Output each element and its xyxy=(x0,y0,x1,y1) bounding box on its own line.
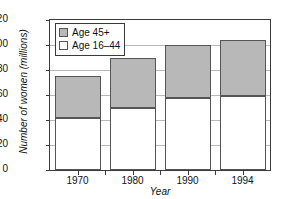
x-tick-mark-minor xyxy=(215,170,216,175)
bar-segment-age-16-44[interactable] xyxy=(110,108,156,171)
y-tick-mark xyxy=(46,20,50,21)
y-axis-title: Number of women (millions) xyxy=(18,17,29,167)
x-tick-mark-minor xyxy=(105,170,106,175)
x-axis-title: Year xyxy=(49,186,271,197)
y-tick-label-text: 0 xyxy=(0,163,8,174)
x-tick-mark-minor xyxy=(160,170,161,175)
bar-1994[interactable] xyxy=(220,40,266,170)
bar-segment-age-16-44[interactable] xyxy=(55,118,101,171)
x-tick-label: 1970 xyxy=(53,175,103,186)
bar-segment-age-45-plus[interactable] xyxy=(165,45,211,98)
y-tick-mark xyxy=(46,45,50,46)
white-swatch-icon xyxy=(59,41,68,50)
y-tick-label-text: 80 xyxy=(0,63,8,74)
y-tick-mark xyxy=(46,120,50,121)
x-tick-label: 1990 xyxy=(163,175,213,186)
stacked-bar-chart: Number of women (millions) 0204060801001… xyxy=(0,0,282,199)
bar-1980[interactable] xyxy=(110,58,156,171)
x-tick-label: 1994 xyxy=(218,175,268,186)
bar-1990[interactable] xyxy=(165,45,211,170)
legend-label: Age 16–44 xyxy=(72,40,120,51)
chart-legend: Age 45+ Age 16–44 xyxy=(55,23,125,56)
legend-item-age-16-44: Age 16–44 xyxy=(59,39,120,52)
x-tick-label: 1980 xyxy=(108,175,158,186)
y-tick-label-text: 60 xyxy=(0,88,8,99)
y-tick-mark xyxy=(46,95,50,96)
bar-segment-age-16-44[interactable] xyxy=(220,96,266,170)
legend-label: Age 45+ xyxy=(72,27,110,38)
y-tick-label-text: 20 xyxy=(0,138,8,149)
y-tick-label-text: 40 xyxy=(0,113,8,124)
y-tick-label-text: 100 xyxy=(0,38,8,49)
y-tick-mark xyxy=(46,170,50,171)
legend-item-age-45-plus: Age 45+ xyxy=(59,26,120,39)
gray-swatch-icon xyxy=(59,28,68,37)
bar-segment-age-45-plus[interactable] xyxy=(220,40,266,96)
bar-segment-age-45-plus[interactable] xyxy=(110,58,156,108)
bar-segment-age-16-44[interactable] xyxy=(165,98,211,171)
bar-1970[interactable] xyxy=(55,76,101,170)
y-tick-mark xyxy=(46,145,50,146)
y-tick-mark xyxy=(46,70,50,71)
y-tick-label-text: 120 xyxy=(0,13,8,24)
bar-segment-age-45-plus[interactable] xyxy=(55,76,101,117)
